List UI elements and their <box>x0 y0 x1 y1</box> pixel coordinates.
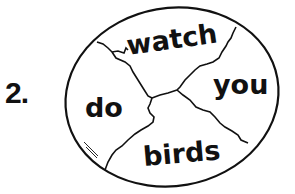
piece-word-bottom: birds <box>142 134 222 172</box>
cracked-egg-icon: watch you do birds <box>0 0 295 194</box>
piece-word-right: you <box>213 69 268 100</box>
piece-word-left: do <box>85 92 123 123</box>
egg-puzzle-illustration: 2. watch you do birds <box>0 0 295 194</box>
piece-word-top: watch <box>125 18 220 61</box>
exercise-number: 2. <box>5 76 28 110</box>
